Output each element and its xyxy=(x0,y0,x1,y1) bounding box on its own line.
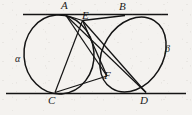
circle-label-alpha: α xyxy=(15,53,20,64)
segment-c-e xyxy=(55,21,83,93)
circle-beta xyxy=(86,5,179,105)
circle-label-beta: β xyxy=(165,43,170,54)
point-label-a: A xyxy=(61,0,68,11)
point-label-c: C xyxy=(48,95,55,106)
circle-alpha xyxy=(21,13,96,97)
point-label-d: D xyxy=(140,95,148,106)
geometry-figure: A B C D E F α β xyxy=(0,0,192,115)
segment-c-f xyxy=(55,76,107,93)
point-label-b: B xyxy=(119,1,126,12)
segment-e-d xyxy=(83,21,147,93)
point-label-e: E xyxy=(82,10,89,21)
point-label-f: F xyxy=(104,70,111,81)
geometry-canvas xyxy=(0,0,192,115)
